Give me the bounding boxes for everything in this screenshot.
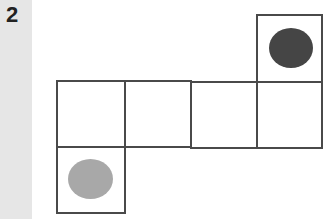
- cell-row-3: [190, 81, 258, 149]
- light-circle-icon: [68, 159, 113, 199]
- cell-row-2: [124, 80, 192, 148]
- cell-row-1: [56, 80, 126, 148]
- cell-row-4: [256, 81, 323, 149]
- dark-circle-icon: [269, 28, 313, 68]
- question-number: 2: [6, 4, 18, 26]
- sidebar-strip: [0, 0, 32, 219]
